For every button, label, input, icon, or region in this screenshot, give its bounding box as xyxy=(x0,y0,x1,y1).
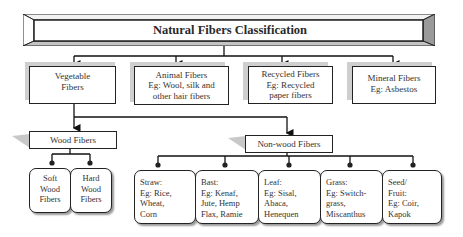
node-leaf: Leaf: Eg: Sisal, Abaca, Henequen xyxy=(258,170,321,224)
node-straw: Straw: Eg: Rice, Wheat, Corn xyxy=(134,170,196,224)
node-animal-fibers: Animal Fibers Eg: Wool, silk and other h… xyxy=(134,66,229,105)
node-label: Straw: Eg: Rice, Wheat, Corn xyxy=(140,177,190,219)
node-recycled-fibers: Recycled Fibers Eg: Recycled paper fiber… xyxy=(248,66,333,104)
node-vegetable-fibers: Vegetable Fibers xyxy=(29,66,116,104)
node-label: Leaf: Eg: Sisal, Abaca, Henequen xyxy=(264,177,315,219)
node-non-wood-fibers: Non-wood Fibers xyxy=(245,135,333,153)
node-bast: Bast: Eg: Kenaf, Jute, Hemp Flax, Ramie xyxy=(195,170,259,224)
node-hard-wood-fibers: Hard Wood Fibers xyxy=(70,168,112,213)
node-label: Grass: Eg: Switch- grass, Miscanthus xyxy=(326,177,377,219)
diagram-title: Natural Fibers Classification xyxy=(36,19,424,41)
node-soft-wood-fibers: Soft Wood Fibers xyxy=(29,168,71,213)
node-label: Soft Wood Fibers xyxy=(32,173,68,205)
node-mineral-fibers: Mineral Fibers Eg: Asbestos xyxy=(352,66,436,104)
node-wood-fibers: Wood Fibers xyxy=(29,131,117,149)
node-seed-fruit: Seed/ Fruit: Eg: Coir, Kapok xyxy=(382,170,442,224)
node-grass: Grass: Eg: Switch- grass, Miscanthus xyxy=(320,170,383,224)
node-label: Bast: Eg: Kenaf, Jute, Hemp Flax, Ramie xyxy=(201,177,253,219)
node-label: Hard Wood Fibers xyxy=(73,173,109,205)
node-label: Seed/ Fruit: Eg: Coir, Kapok xyxy=(388,177,436,219)
